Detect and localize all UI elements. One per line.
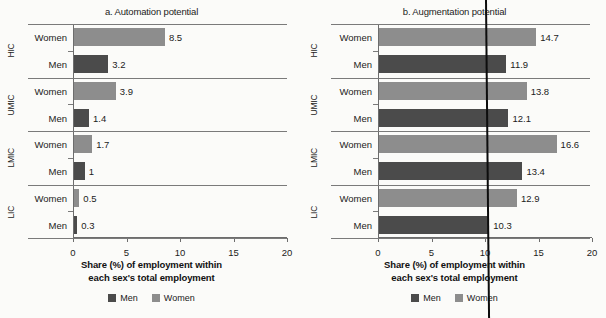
bar-umic-men[interactable] — [379, 109, 508, 127]
x-axis-caption-line2: each sex's total employment — [0, 271, 303, 284]
group-separator — [331, 238, 590, 239]
bar-hic-women[interactable] — [379, 28, 536, 46]
bar-row[interactable]: Men1 — [73, 158, 287, 185]
bar-lic-women[interactable] — [379, 189, 517, 207]
x-axis-caption-line1: Share (%) of employment within — [0, 258, 303, 271]
bar-row[interactable]: Men12.1 — [378, 104, 592, 131]
bar-row-label: Men — [49, 219, 67, 230]
x-axis-tick-label: 20 — [587, 247, 598, 258]
panel-title: a. Automation potential — [0, 6, 303, 17]
bar-row-label: Women — [339, 85, 372, 96]
group-label-hic: HIC — [306, 24, 322, 78]
panel-title: b. Augmentation potential — [303, 6, 606, 17]
bar-value-label: 1 — [89, 166, 94, 177]
plot-area-a-automation-potential: 05101520HICUMICLMICLICWomen8.5Men3.2Wome… — [73, 24, 287, 238]
bar-row-label: Women — [34, 85, 67, 96]
bar-row-label: Women — [339, 139, 372, 150]
x-axis-tick-label: 15 — [533, 247, 544, 258]
bar-row-label: Men — [354, 59, 372, 70]
x-axis-tick-label: 15 — [228, 247, 239, 258]
x-axis-caption: Share (%) of employment withineach sex's… — [0, 258, 303, 284]
plot-area-b-augmentation-potential: 05101520HICUMICLMICLICWomen14.7Men11.9Wo… — [378, 24, 592, 238]
legend-item-men[interactable]: Men — [108, 293, 138, 303]
bar-umic-men[interactable] — [74, 109, 89, 127]
bar-row-label: Men — [49, 166, 67, 177]
bar-value-label: 8.5 — [169, 32, 182, 43]
legend-item-men[interactable]: Men — [411, 293, 441, 303]
bar-row[interactable]: Women12.9 — [378, 185, 592, 212]
bar-hic-women[interactable] — [74, 28, 165, 46]
legend-swatch-men — [108, 294, 116, 302]
bar-row[interactable]: Men11.9 — [378, 51, 592, 78]
bar-value-label: 1.4 — [93, 112, 106, 123]
group-label-umic: UMIC — [306, 78, 322, 132]
bar-value-label: 13.4 — [526, 166, 545, 177]
bar-row[interactable]: Men13.4 — [378, 158, 592, 185]
bar-hic-men[interactable] — [379, 55, 506, 73]
bar-row[interactable]: Women14.7 — [378, 24, 592, 51]
x-axis-tick-label: 0 — [375, 247, 380, 258]
bar-row[interactable]: Women13.8 — [378, 78, 592, 105]
bar-row-label: Men — [49, 59, 67, 70]
legend-item-women[interactable]: Women — [455, 293, 498, 303]
bar-lic-women[interactable] — [74, 189, 79, 207]
bar-value-label: 10.3 — [493, 219, 512, 230]
bar-row-label: Women — [339, 192, 372, 203]
bar-row-label: Women — [339, 32, 372, 43]
bar-row[interactable]: Men0.3 — [73, 211, 287, 238]
bar-row[interactable]: Women8.5 — [73, 24, 287, 51]
x-axis-tick-label: 5 — [429, 247, 434, 258]
bar-row-label: Men — [354, 112, 372, 123]
bar-row-label: Women — [34, 32, 67, 43]
legend: MenWomen — [303, 293, 606, 303]
bar-umic-women[interactable] — [74, 82, 116, 100]
bar-row-label: Men — [49, 112, 67, 123]
legend-label: Women — [467, 293, 498, 303]
bar-lic-men[interactable] — [74, 216, 77, 234]
bar-lic-men[interactable] — [379, 216, 489, 234]
x-axis-tick-label: 5 — [124, 247, 129, 258]
bar-row-label: Men — [354, 219, 372, 230]
x-axis-tick-label: 0 — [70, 247, 75, 258]
x-axis-tick-label: 10 — [480, 247, 491, 258]
figure-two-panel-bar-charts: a. Automation potential05101520HICUMICLM… — [0, 0, 606, 318]
bar-row[interactable]: Men1.4 — [73, 104, 287, 131]
bar-row[interactable]: Men10.3 — [378, 211, 592, 238]
bar-row[interactable]: Women0.5 — [73, 185, 287, 212]
bar-value-label: 0.3 — [81, 219, 94, 230]
bar-value-label: 12.9 — [521, 192, 540, 203]
group-separator — [28, 238, 287, 239]
x-axis-tick-label: 10 — [175, 247, 186, 258]
x-axis-tick — [592, 238, 593, 242]
legend: MenWomen — [0, 293, 303, 303]
bar-value-label: 1.7 — [96, 139, 109, 150]
bar-value-label: 12.1 — [512, 112, 531, 123]
bar-hic-men[interactable] — [74, 55, 108, 73]
legend-swatch-women — [455, 294, 463, 302]
group-label-lmic: LMIC — [306, 131, 322, 185]
bar-lmic-men[interactable] — [379, 162, 522, 180]
panel-automation-potential: a. Automation potential05101520HICUMICLM… — [0, 0, 303, 318]
bar-lmic-women[interactable] — [379, 135, 557, 153]
bar-value-label: 16.6 — [561, 139, 580, 150]
x-axis-caption-line1: Share (%) of employment within — [303, 258, 606, 271]
category-tick — [68, 211, 73, 212]
group-label-lic: LIC — [3, 185, 19, 239]
category-tick — [373, 211, 378, 212]
category-tick — [373, 158, 378, 159]
bar-value-label: 13.8 — [531, 85, 550, 96]
bar-row[interactable]: Men3.2 — [73, 51, 287, 78]
group-label-umic: UMIC — [3, 78, 19, 132]
legend-swatch-men — [411, 294, 419, 302]
bar-lmic-men[interactable] — [74, 162, 85, 180]
bar-row[interactable]: Women16.6 — [378, 131, 592, 158]
category-tick — [68, 104, 73, 105]
bar-value-label: 0.5 — [83, 192, 96, 203]
bar-row[interactable]: Women3.9 — [73, 78, 287, 105]
bar-lmic-women[interactable] — [74, 135, 92, 153]
legend-item-women[interactable]: Women — [152, 293, 195, 303]
bar-umic-women[interactable] — [379, 82, 527, 100]
bar-row[interactable]: Women1.7 — [73, 131, 287, 158]
x-axis-tick-label: 20 — [282, 247, 293, 258]
bar-value-label: 3.9 — [120, 85, 133, 96]
